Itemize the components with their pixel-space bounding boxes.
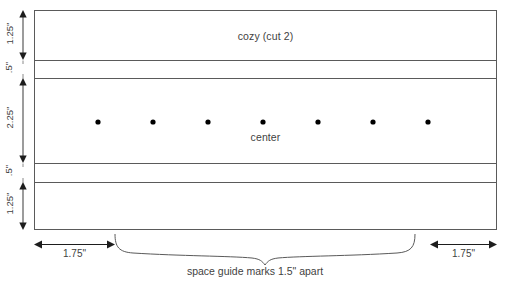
- panel-label-center: center: [34, 131, 497, 143]
- guide-mark-dot: [370, 119, 375, 124]
- guide-mark-dot: [260, 119, 265, 124]
- guide-mark-dot: [95, 119, 100, 124]
- panel-label-cozy: cozy (cut 2): [34, 30, 497, 42]
- pattern-diagram: 1.25" .5" 2.25" .5" 1.25" cozy (cut 2) c…: [0, 0, 510, 282]
- guide-mark-dot: [205, 119, 210, 124]
- dimension-label-upper-half: .5": [3, 47, 14, 89]
- guide-mark-dot: [315, 119, 320, 124]
- guide-span-brace: [115, 234, 415, 265]
- dimension-label-right-175: 1.75": [430, 248, 497, 259]
- dimension-arrow-bottom-125: [19, 182, 26, 230]
- guide-mark-dot: [150, 119, 155, 124]
- dimension-label-left-175: 1.75": [34, 248, 115, 259]
- guide-mark-dot: [425, 119, 430, 124]
- dimension-arrow-middle-225: [19, 78, 26, 163]
- dimension-label-bottom-125: 1.25": [4, 183, 15, 225]
- dimension-arrow-top-125: [19, 10, 26, 60]
- guide-span-caption: space guide marks 1.5" apart: [0, 265, 510, 277]
- dimension-label-middle-225: 2.25": [4, 97, 15, 139]
